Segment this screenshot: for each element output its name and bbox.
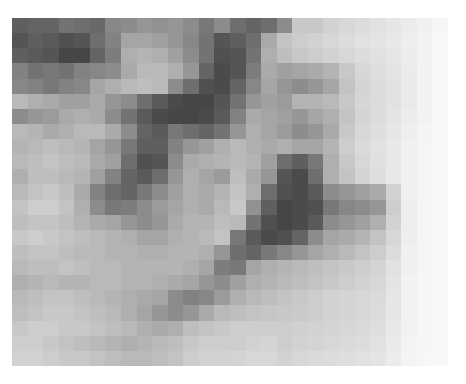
pixel-cell [261, 154, 277, 169]
pixel-cell [168, 154, 184, 169]
pixel-cell [339, 245, 355, 260]
pixel-cell [308, 79, 324, 94]
pixel-cell [370, 94, 386, 109]
pixel-cell [59, 200, 75, 215]
pixel-cell [12, 200, 28, 215]
pixel-cell [152, 351, 168, 366]
pixel-cell [246, 200, 262, 215]
pixel-cell [74, 321, 90, 336]
pixel-cell [152, 48, 168, 63]
pixel-cell [308, 124, 324, 139]
pixel-cell [59, 109, 75, 124]
pixel-cell [183, 336, 199, 351]
pixel-cell [214, 79, 230, 94]
pixel-cell [168, 305, 184, 320]
pixel-cell [432, 245, 448, 260]
pixel-cell [432, 336, 448, 351]
pixel-cell [401, 48, 417, 63]
pixel-cell [386, 94, 402, 109]
pixel-cell [323, 305, 339, 320]
pixel-cell [308, 184, 324, 199]
pixel-cell [432, 290, 448, 305]
pixel-cell [277, 336, 293, 351]
pixel-cell [121, 94, 137, 109]
pixel-cell [168, 63, 184, 78]
pixel-cell [12, 184, 28, 199]
pixel-cell [386, 169, 402, 184]
pixel-cell [121, 33, 137, 48]
pixel-cell [74, 169, 90, 184]
pixel-cell [386, 260, 402, 275]
pixel-cell [214, 139, 230, 154]
pixel-cell [246, 48, 262, 63]
pixel-cell [230, 321, 246, 336]
pixel-cell [323, 275, 339, 290]
pixel-cell [277, 200, 293, 215]
pixel-cell [339, 200, 355, 215]
pixel-cell [74, 154, 90, 169]
pixel-cell [59, 79, 75, 94]
pixel-cell [432, 169, 448, 184]
pixel-cell [199, 321, 215, 336]
pixel-cell [74, 18, 90, 33]
pixel-cell [355, 336, 371, 351]
pixel-cell [28, 48, 44, 63]
pixel-cell [214, 321, 230, 336]
pixel-cell [214, 275, 230, 290]
pixel-cell [370, 321, 386, 336]
pixel-cell [355, 18, 371, 33]
pixel-cell [12, 290, 28, 305]
pixel-cell [199, 290, 215, 305]
pixel-cell [277, 109, 293, 124]
pixel-cell [230, 154, 246, 169]
pixel-cell [277, 290, 293, 305]
pixel-cell [308, 154, 324, 169]
pixel-cell [246, 275, 262, 290]
pixel-cell [183, 79, 199, 94]
pixel-cell [370, 260, 386, 275]
pixel-cell [323, 260, 339, 275]
pixel-cell [339, 154, 355, 169]
pixel-cell [401, 260, 417, 275]
pixel-cell [12, 169, 28, 184]
pixel-cell [339, 124, 355, 139]
pixel-cell [417, 124, 433, 139]
pixel-cell [370, 124, 386, 139]
pixel-cell [308, 169, 324, 184]
pixel-cell [90, 200, 106, 215]
pixel-cell [277, 94, 293, 109]
pixel-cell [152, 169, 168, 184]
pixel-cell [230, 245, 246, 260]
pixel-cell [168, 336, 184, 351]
pixel-cell [168, 139, 184, 154]
pixel-cell [28, 169, 44, 184]
pixel-cell [12, 215, 28, 230]
pixel-cell [355, 63, 371, 78]
pixel-cell [277, 245, 293, 260]
pixel-cell [308, 48, 324, 63]
pixel-cell [121, 275, 137, 290]
pixel-cell [355, 305, 371, 320]
pixel-cell [339, 94, 355, 109]
pixel-cell [152, 154, 168, 169]
pixel-cell [59, 215, 75, 230]
pixel-cell [137, 290, 153, 305]
pixel-cell [261, 184, 277, 199]
pixel-cell [152, 139, 168, 154]
pixel-cell [355, 79, 371, 94]
pixel-cell [432, 154, 448, 169]
pixel-cell [370, 290, 386, 305]
pixel-cell [261, 33, 277, 48]
pixel-cell [230, 336, 246, 351]
pixel-cell [323, 215, 339, 230]
pixel-cell [308, 109, 324, 124]
pixel-cell [386, 200, 402, 215]
pixel-cell [370, 200, 386, 215]
pixel-cell [90, 290, 106, 305]
pixel-cell [121, 336, 137, 351]
pixel-cell [152, 18, 168, 33]
pixel-cell [121, 260, 137, 275]
pixel-cell [401, 154, 417, 169]
pixel-cell [292, 351, 308, 366]
pixel-cell [339, 109, 355, 124]
